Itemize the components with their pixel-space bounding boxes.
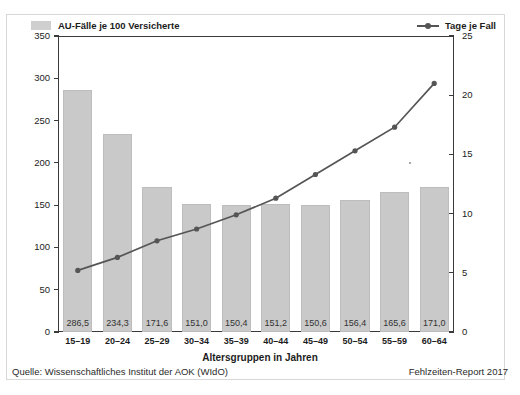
plot-area: 050100150200250300350 0510152025 286,523…	[58, 36, 454, 332]
line-marker	[115, 255, 120, 260]
y-axis-left-tick-label: 300	[10, 73, 50, 83]
line-marker	[75, 268, 80, 273]
line-marker	[154, 238, 159, 243]
chart-footer: Quelle: Wissenschaftliches Institut der …	[12, 366, 508, 377]
y-axis-right-tick-label: 10	[462, 209, 502, 219]
line-series	[58, 36, 454, 332]
y-axis-left-tick-label: 350	[10, 31, 50, 41]
legend-bars: AU-Fälle je 100 Versicherte	[31, 20, 179, 31]
y-axis-left-tick-label: 50	[10, 285, 50, 295]
legend-bars-label: AU-Fälle je 100 Versicherte	[58, 20, 179, 31]
report-note: Fehlzeiten-Report 2017	[409, 366, 508, 377]
x-axis-tick-label: 35–39	[216, 336, 256, 346]
x-axis-tick-label: 50–54	[335, 336, 375, 346]
line-path	[78, 83, 434, 270]
x-axis-tick-label: 25–29	[137, 336, 177, 346]
x-axis-tick-label: 55–59	[375, 336, 415, 346]
x-axis-tick-label: 20–24	[98, 336, 138, 346]
line-marker	[432, 81, 437, 86]
chart-figure: AU-Fälle je 100 Versicherte Tage je Fall…	[0, 0, 520, 395]
x-axis-tick-label: 60–64	[414, 336, 454, 346]
y-axis-right-tick-label: 20	[462, 90, 502, 100]
x-axis-tick-label: 15–19	[58, 336, 98, 346]
legend-line: Tage je Fall	[417, 20, 496, 31]
line-legend-marker	[417, 21, 439, 30]
line-marker	[234, 212, 239, 217]
y-axis-left-tick-label: 200	[10, 158, 50, 168]
x-axis-tick-label: 40–44	[256, 336, 296, 346]
line-marker	[392, 125, 397, 130]
y-axis-left-tick-label: 250	[10, 116, 50, 126]
y-axis-left-tick-label: 0	[10, 327, 50, 337]
line-marker	[194, 226, 199, 231]
source-note: Quelle: Wissenschaftliches Institut der …	[12, 366, 228, 377]
y-axis-left-tick-label: 100	[10, 242, 50, 252]
y-axis-right-tick-label: 25	[462, 31, 502, 41]
y-axis-right-tick-label: 0	[462, 327, 502, 337]
line-marker	[313, 172, 318, 177]
x-axis-tick-label: 30–34	[177, 336, 217, 346]
y-axis-right-tick-label: 15	[462, 149, 502, 159]
line-marker	[273, 196, 278, 201]
bar-legend-swatch	[31, 21, 51, 30]
x-axis-tick-label: 45–49	[296, 336, 336, 346]
line-marker	[352, 148, 357, 153]
y-axis-right-tick-label: 5	[462, 268, 502, 278]
y-axis-left-tick-label: 150	[10, 200, 50, 210]
x-axis-title: Altersgruppen in Jahren	[0, 352, 520, 363]
